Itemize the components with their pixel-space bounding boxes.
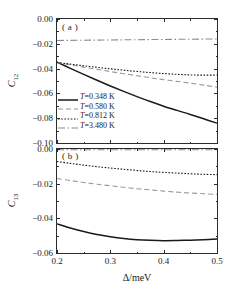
x-tick-minor (84, 18, 85, 21)
y-tick-major (56, 218, 60, 219)
x-tick-major (110, 148, 111, 152)
x-tick-minor (84, 142, 85, 145)
y-tick-minor (216, 166, 219, 167)
y-tick-label: −0.02 (1, 39, 53, 49)
y-tick-major (214, 93, 218, 94)
y-tick-major (56, 69, 60, 70)
x-tick-minor (190, 148, 191, 151)
x-tick-major (217, 140, 218, 144)
x-tick-minor (84, 148, 85, 151)
x-tick-minor (137, 18, 138, 21)
x-tick-minor (84, 252, 85, 255)
y-tick-major (56, 44, 60, 45)
x-tick-major (217, 148, 218, 152)
y-tick-label: 0.00 (1, 14, 53, 24)
x-axis-title: Δ/meV (56, 272, 218, 283)
y-tick-major (214, 118, 218, 119)
y-tick-minor (56, 56, 59, 57)
panel-a-y-axis-title: C12 (6, 61, 19, 101)
y-tick-label: −0.06 (1, 248, 53, 258)
legend-item-3: T=0.812 K (58, 111, 115, 121)
x-tick-major (164, 250, 165, 254)
x-tick-major (217, 18, 218, 22)
x-tick-major (57, 18, 58, 22)
panel-b-curves (56, 148, 218, 254)
x-tick-major (110, 140, 111, 144)
legend-item-label: T=0.812 K (80, 111, 115, 120)
legend-item-1: T=0.348 K (58, 92, 115, 102)
y-tick-minor (56, 166, 59, 167)
series-line-2 (57, 178, 217, 194)
x-tick-major (164, 18, 165, 22)
x-tick-major (110, 250, 111, 254)
x-tick-minor (190, 142, 191, 145)
panel-b-plot-area: ( b ) (56, 148, 218, 254)
x-tick-label: 0.5 (211, 256, 222, 266)
x-tick-minor (190, 18, 191, 21)
x-tick-minor (137, 252, 138, 255)
y-tick-major (214, 69, 218, 70)
y-tick-minor (216, 236, 219, 237)
y-tick-minor (56, 31, 59, 32)
series-line-4 (57, 39, 217, 40)
y-tick-major (214, 184, 218, 185)
legend-item-4: T=3.480 K (58, 121, 115, 131)
y-tick-label: −0.08 (1, 113, 53, 123)
series-line-3 (57, 161, 217, 174)
y-tick-major (214, 218, 218, 219)
legend-item-label: T=0.580 K (80, 102, 115, 111)
panel-b-y-axis-title: C13 (6, 181, 19, 221)
legend-item-label: T=0.348 K (80, 92, 115, 101)
y-tick-minor (56, 81, 59, 82)
x-tick-minor (137, 148, 138, 151)
y-tick-minor (56, 201, 59, 202)
panel-a-tag: ( a ) (62, 22, 78, 32)
legend-item-2: T=0.580 K (58, 102, 115, 112)
x-tick-label: 0.2 (51, 256, 62, 266)
series-line-2 (57, 62, 217, 87)
x-tick-label: 0.4 (158, 256, 169, 266)
y-tick-minor (216, 106, 219, 107)
x-tick-minor (137, 142, 138, 145)
x-tick-major (164, 140, 165, 144)
x-tick-label: 0.3 (105, 256, 116, 266)
x-tick-major (57, 250, 58, 254)
y-tick-label: 0.00 (1, 144, 53, 154)
x-tick-major (57, 148, 58, 152)
x-tick-major (57, 140, 58, 144)
y-tick-minor (216, 131, 219, 132)
y-tick-minor (216, 56, 219, 57)
figure-container: ( a ) ( b ) 0.00−0.02−0.04−0.06−0.08−0.1… (0, 0, 228, 295)
legend: T=0.348 KT=0.580 KT=0.812 KT=3.480 K (58, 92, 115, 130)
y-tick-major (56, 184, 60, 185)
x-tick-minor (190, 252, 191, 255)
x-tick-major (217, 250, 218, 254)
y-tick-minor (216, 31, 219, 32)
y-tick-minor (56, 236, 59, 237)
y-tick-minor (216, 201, 219, 202)
series-line-1 (57, 224, 217, 241)
y-tick-minor (216, 81, 219, 82)
panel-b-tag: ( b ) (62, 151, 79, 161)
x-tick-major (164, 148, 165, 152)
x-tick-major (110, 18, 111, 22)
y-tick-major (214, 44, 218, 45)
legend-item-label: T=3.480 K (80, 121, 115, 130)
